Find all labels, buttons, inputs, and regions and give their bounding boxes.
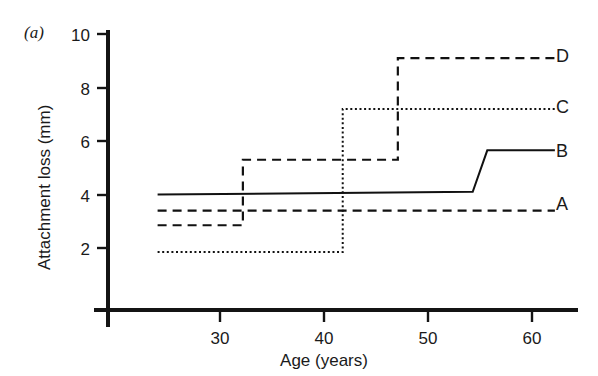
- x-tick-label-30: 30: [211, 329, 230, 348]
- y-tick-labels: 10 8 6 4 2: [71, 26, 90, 259]
- panel-label: (a): [24, 23, 44, 42]
- series-labels: D C B A: [556, 46, 569, 214]
- x-axis-title: Age (years): [280, 351, 368, 370]
- series-line-d: [158, 58, 555, 225]
- figure-container: (a) Attachment loss (mm) Age (years) 10 …: [0, 0, 598, 376]
- series-label-c: C: [556, 97, 569, 117]
- x-tick-labels: 30 40 50 60: [211, 329, 542, 348]
- data-series-layer: [158, 58, 555, 252]
- y-tick-label-2: 2: [81, 240, 90, 259]
- y-tick-label-6: 6: [81, 133, 90, 152]
- y-tick-label-10: 10: [71, 26, 90, 45]
- attachment-loss-chart: (a) Attachment loss (mm) Age (years) 10 …: [0, 0, 598, 376]
- series-label-d: D: [556, 46, 569, 66]
- series-line-c: [158, 109, 555, 252]
- series-line-b: [158, 150, 555, 194]
- y-tick-label-8: 8: [81, 80, 90, 99]
- series-label-b: B: [556, 141, 568, 161]
- x-tick-label-50: 50: [419, 329, 438, 348]
- y-tick-label-4: 4: [81, 187, 90, 206]
- x-tick-label-40: 40: [315, 329, 334, 348]
- x-tick-label-60: 60: [523, 329, 542, 348]
- series-label-a: A: [556, 194, 568, 214]
- y-axis-title: Attachment loss (mm): [35, 105, 54, 270]
